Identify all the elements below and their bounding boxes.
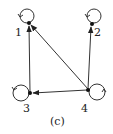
- self-loop-3: [13, 85, 29, 101]
- figure-caption: (c): [50, 115, 65, 128]
- edge-4-to-2: [88, 27, 91, 89]
- node-label-3: 3: [23, 102, 30, 115]
- node-label-2: 2: [94, 26, 101, 39]
- directed-graph: 1 2 3 4 (c): [0, 0, 113, 134]
- edge-3-to-1: [29, 26, 30, 92]
- edge-4-to-1: [31, 25, 88, 89]
- node-label-1: 1: [15, 26, 22, 39]
- node-1: [27, 21, 31, 25]
- self-loop-4-arrow-icon: [102, 89, 106, 92]
- node-label-4: 4: [81, 102, 88, 115]
- node-4: [86, 88, 90, 92]
- edge-4-to-3: [33, 90, 87, 93]
- node-3: [28, 91, 32, 95]
